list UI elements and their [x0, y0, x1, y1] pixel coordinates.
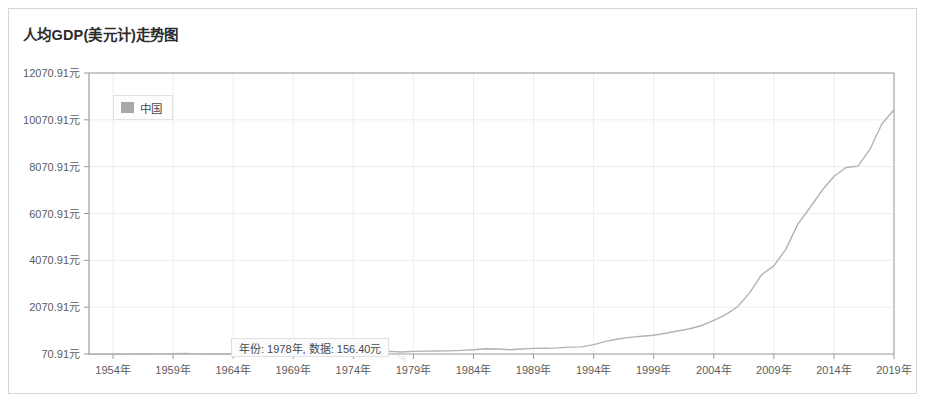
data-line-中国[interactable] — [89, 110, 894, 355]
x-axis-tick-label: 2009年 — [756, 363, 791, 376]
y-axis-tick-label: 10070.91元 — [23, 114, 80, 126]
y-axis-tick-label: 8070.91元 — [29, 161, 80, 173]
x-axis-tick-label: 1994年 — [576, 363, 611, 376]
x-axis-tick-label: 1964年 — [215, 363, 250, 376]
chart-card: 人均GDP(美元计)走势图 70.91元2070.91元4070.91元6070… — [8, 8, 917, 394]
chart-tooltip: 年份: 1978年, 数据: 156.40元 — [231, 338, 389, 357]
x-axis-tick-label: 1989年 — [516, 363, 551, 376]
x-axis-tick-label: 1999年 — [636, 363, 671, 376]
x-axis-tick-label: 1959年 — [155, 363, 190, 376]
x-axis-tick-label: 1974年 — [336, 363, 371, 376]
y-axis-tick-label: 2070.91元 — [29, 301, 80, 313]
x-axis-tick-label: 2019年 — [876, 363, 911, 376]
y-axis-tick-label: 4070.91元 — [29, 254, 80, 266]
y-axis-tick-label: 70.91元 — [41, 348, 80, 360]
legend-label-china: 中国 — [140, 100, 162, 116]
x-axis-tick-label: 1984年 — [456, 363, 491, 376]
chart-plot-area[interactable]: 70.91元2070.91元4070.91元6070.91元8070.91元10… — [9, 9, 918, 395]
chart-tooltip-text: 年份: 1978年, 数据: 156.40元 — [239, 340, 381, 356]
y-axis-tick-label: 12070.91元 — [23, 67, 80, 79]
legend-swatch-china — [121, 102, 134, 113]
line-chart-svg[interactable]: 70.91元2070.91元4070.91元6070.91元8070.91元10… — [9, 9, 918, 395]
x-axis-tick-label: 2014年 — [816, 363, 851, 376]
x-axis-tick-label: 1954年 — [95, 363, 130, 376]
x-axis-tick-label: 1969年 — [276, 363, 311, 376]
x-axis-tick-label: 1979年 — [396, 363, 431, 376]
chart-tooltip-pointer — [397, 356, 406, 363]
x-axis-tick-label: 2004年 — [696, 363, 731, 376]
chart-legend[interactable]: 中国 — [113, 95, 173, 120]
y-axis-tick-label: 6070.91元 — [29, 208, 80, 220]
